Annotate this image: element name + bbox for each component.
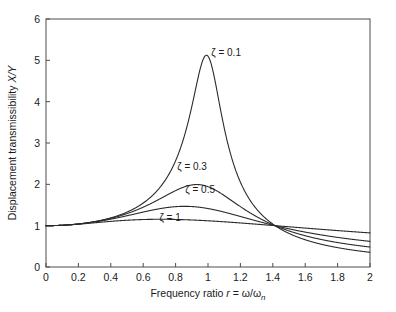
annotation-3: ζ = 1 [159,212,181,224]
x-tick-label: 1.2 [233,271,248,283]
x-title-prefix: Frequency ratio [150,287,226,299]
x-tick-label: 1.8 [330,271,345,283]
x-tick-label: 0.8 [168,271,183,283]
y-tick-label: 4 [34,96,40,108]
transmissibility-chart-figure: 00.20.40.60.811.21.41.61.82 0123456 ζ = … [0,0,396,312]
y-title-var: X/Y [6,65,18,84]
x-title-subscript: n [261,293,266,302]
x-tick-label: 1 [205,271,211,283]
x-title-omega-num: ω [242,287,250,299]
y-tick-label: 6 [34,13,40,25]
x-tick-label: 0 [43,271,49,283]
x-tick-label: 0.4 [103,271,118,283]
x-tick-label: 1.6 [298,271,313,283]
x-tick-label: 0.2 [71,271,86,283]
x-title-omega-den: ω [253,287,261,299]
chart-background [0,0,396,312]
x-tick-label: 2 [367,271,373,283]
y-tick-label: 3 [34,137,40,149]
annotation-1: ζ = 0.3 [177,161,207,173]
y-tick-label: 5 [34,54,40,66]
svg-text:Displacement transmissibility: Displacement transmissibility X/Y [6,65,18,221]
x-tick-label: 0.6 [136,271,151,283]
x-tick-label: 1.4 [265,271,280,283]
chart-canvas: 00.20.40.60.811.21.41.61.82 0123456 ζ = … [0,0,396,312]
x-title-eq: = [230,287,242,299]
annotation-0: ζ = 0.1 [211,47,241,59]
y-axis-title: Displacement transmissibility X/Y [6,65,18,221]
y-title-prefix: Displacement transmissibility [6,83,18,221]
annotation-2: ζ = 0.5 [185,184,215,196]
y-tick-label: 0 [34,261,40,273]
y-tick-label: 2 [34,178,40,190]
y-tick-label: 1 [34,220,40,232]
